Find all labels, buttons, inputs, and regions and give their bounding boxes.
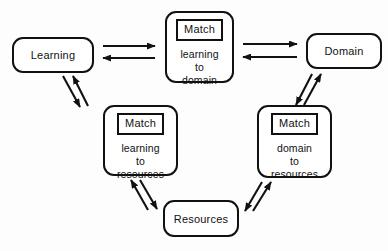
match-body: learning to resources bbox=[117, 142, 164, 181]
node-resources[interactable]: Resources bbox=[163, 200, 239, 237]
diagram-canvas: Learning Match learning to domain Domain… bbox=[0, 0, 388, 251]
match-body: learning to domain bbox=[180, 48, 218, 87]
match-body-line1: learning bbox=[117, 142, 164, 155]
match-body-line1: domain bbox=[271, 142, 318, 155]
node-learning[interactable]: Learning bbox=[12, 37, 94, 73]
node-match-domain-to-resources[interactable]: Match domain to resources bbox=[257, 105, 332, 178]
arrow-match-dr-to-domain bbox=[304, 74, 321, 105]
arrow-match-lr-to-learning bbox=[73, 76, 88, 106]
match-body-line3: domain bbox=[180, 74, 218, 87]
arrow-resources-to-match-dr bbox=[253, 182, 271, 211]
node-learning-label: Learning bbox=[31, 49, 75, 61]
match-body-line3: resources bbox=[271, 168, 318, 181]
node-domain-label: Domain bbox=[324, 45, 363, 57]
match-tag: Match bbox=[117, 113, 164, 135]
node-domain[interactable]: Domain bbox=[306, 33, 382, 69]
arrow-match-lr-to-resources bbox=[140, 180, 157, 209]
match-tag: Match bbox=[271, 113, 318, 135]
arrow-domain-to-match-dr bbox=[296, 74, 312, 105]
node-match-learning-to-domain[interactable]: Match learning to domain bbox=[165, 11, 234, 83]
match-body-line2: to bbox=[271, 155, 318, 168]
match-body-line2: to bbox=[117, 155, 164, 168]
match-tag: Match bbox=[176, 19, 223, 41]
node-match-learning-to-resources[interactable]: Match learning to resources bbox=[103, 105, 178, 176]
match-body: domain to resources bbox=[271, 142, 318, 181]
arrow-resources-to-match-lr bbox=[131, 180, 148, 210]
node-resources-label: Resources bbox=[174, 213, 228, 225]
match-body-line3: resources bbox=[117, 168, 164, 181]
match-body-line1: learning bbox=[180, 48, 218, 61]
arrow-learning-to-match-lr bbox=[63, 76, 80, 107]
match-body-line2: to bbox=[180, 61, 218, 74]
arrow-match-dr-to-resources bbox=[245, 182, 262, 211]
